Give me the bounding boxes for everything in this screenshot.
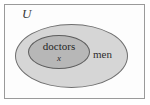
element-marker-x: x <box>36 54 82 63</box>
universal-set-label: U <box>22 7 32 20</box>
set-label-men: men <box>93 49 112 60</box>
set-label-doctors: doctors <box>36 41 82 52</box>
venn-diagram-figure: U doctors x men <box>0 0 150 105</box>
